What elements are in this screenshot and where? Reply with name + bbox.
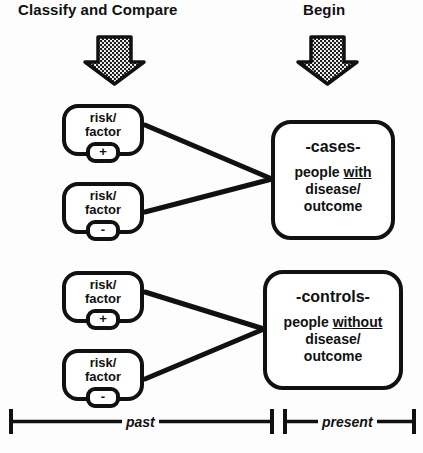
risk-factor-line2: factor bbox=[85, 202, 121, 217]
risk-factor-sign-badge-minus: - bbox=[86, 387, 120, 408]
case-control-diagram: Classify and Compare Begin bbox=[0, 0, 423, 453]
controls-desc-line2: disease/ bbox=[305, 331, 360, 347]
controls-desc-emphasis: without bbox=[333, 314, 383, 330]
controls-title: -controls- bbox=[267, 288, 399, 306]
risk-factor-sign-badge-minus: - bbox=[86, 220, 120, 241]
cases-group-box: -cases- people with disease/ outcome bbox=[271, 120, 395, 240]
risk-factor-line1: risk/ bbox=[90, 355, 117, 370]
cases-desc-line3: outcome bbox=[304, 198, 362, 214]
risk-factor-label: risk/ factor bbox=[66, 189, 140, 217]
risk-factor-box-positive-cases: risk/ factor + bbox=[62, 104, 144, 156]
down-block-arrow-icon-right bbox=[298, 37, 357, 84]
risk-factor-line1: risk/ bbox=[90, 188, 117, 203]
risk-factor-line2: factor bbox=[85, 124, 121, 139]
risk-factor-line2: factor bbox=[85, 291, 121, 306]
down-block-arrow-icon-left bbox=[85, 37, 144, 84]
risk-factor-label: risk/ factor bbox=[66, 278, 140, 306]
cases-desc-prefix: people bbox=[294, 164, 343, 180]
timeline-label-past: past bbox=[122, 414, 159, 430]
risk-factor-box-negative-controls: risk/ factor - bbox=[62, 349, 144, 401]
cases-desc-emphasis: with bbox=[344, 164, 372, 180]
controls-description: people without disease/ outcome bbox=[267, 314, 399, 365]
connector-lines-cases bbox=[145, 125, 272, 212]
cases-description: people with disease/ outcome bbox=[275, 164, 391, 215]
risk-factor-sign-badge-plus: + bbox=[86, 142, 120, 163]
risk-factor-sign-badge-plus: + bbox=[86, 309, 120, 330]
controls-group-box: -controls- people without disease/ outco… bbox=[263, 270, 403, 390]
controls-desc-prefix: people bbox=[284, 314, 333, 330]
risk-factor-line1: risk/ bbox=[90, 110, 117, 125]
risk-factor-line1: risk/ bbox=[90, 277, 117, 292]
cases-desc-line2: disease/ bbox=[305, 181, 360, 197]
connector-lines-controls bbox=[145, 292, 264, 379]
risk-factor-label: risk/ factor bbox=[66, 356, 140, 384]
risk-factor-box-negative-cases: risk/ factor - bbox=[62, 182, 144, 234]
controls-desc-line3: outcome bbox=[304, 348, 362, 364]
risk-factor-box-positive-controls: risk/ factor + bbox=[62, 271, 144, 323]
cases-title: -cases- bbox=[275, 138, 391, 156]
timeline-label-present: present bbox=[318, 414, 377, 430]
risk-factor-line2: factor bbox=[85, 369, 121, 384]
risk-factor-label: risk/ factor bbox=[66, 111, 140, 139]
